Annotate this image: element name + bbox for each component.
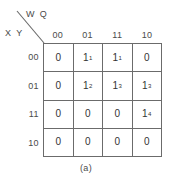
kmap-cell-r3c3: 0 (133, 129, 163, 157)
kmap-cell-group-index: 1 (89, 55, 92, 61)
kmap-cell-r3c2: 0 (103, 129, 133, 157)
kmap-cell-r2c2: 0 (103, 101, 133, 129)
kmap-cell-value: 0 (85, 137, 91, 147)
kmap-cell-value: 1 (113, 81, 119, 91)
kmap-cell-r0c1: 11 (74, 44, 104, 72)
kmap-cell-group-index: 1 (119, 55, 122, 61)
figure-caption: (a) (0, 163, 172, 173)
kmap-cell-group-index: 3 (119, 83, 122, 89)
kmap-cell-value: 1 (113, 53, 119, 63)
kmap-cell-r1c3: 13 (133, 72, 163, 100)
kmap-cell-r2c1: 0 (74, 101, 104, 129)
kmap-cell-r3c1: 0 (74, 129, 104, 157)
row-header-2: 11 (14, 100, 39, 129)
kmap-cell-value: 0 (55, 53, 61, 63)
kmap-cell-group-index: 4 (148, 111, 151, 117)
row-header-1: 01 (14, 72, 39, 101)
row-header-column: 00 01 11 10 (14, 43, 39, 157)
row-variables-label: X Y (5, 28, 24, 38)
kmap-cell-value: 1 (142, 109, 148, 119)
kmap-cell-value: 0 (55, 109, 61, 119)
kmap-cell-r3c0: 0 (44, 129, 74, 157)
kmap-cell-value: 0 (144, 137, 150, 147)
column-header-row: 00 01 11 10 (43, 28, 162, 42)
kmap-cell-value: 0 (55, 137, 61, 147)
kmap-cell-value: 0 (114, 109, 120, 119)
kmap-cell-group-index: 2 (89, 83, 92, 89)
kmap-cell-value: 1 (83, 81, 89, 91)
kmap-cell-r0c2: 11 (103, 44, 133, 72)
kmap-cell-r2c0: 0 (44, 101, 74, 129)
kmap-cell-value: 1 (83, 53, 89, 63)
kmap-cell-value: 0 (144, 53, 150, 63)
column-header-0: 00 (43, 28, 73, 42)
kmap-cell-value: 0 (114, 137, 120, 147)
karnaugh-map-figure: W Q X Y 00 01 11 10 00 01 11 10 01111001… (0, 0, 172, 183)
kmap-cell-value: 0 (55, 81, 61, 91)
kmap-cell-r0c3: 0 (133, 44, 163, 72)
kmap-cell-group-index: 3 (148, 83, 151, 89)
row-header-0: 00 (14, 43, 39, 72)
kmap-cell-r0c0: 0 (44, 44, 74, 72)
column-header-2: 11 (103, 28, 133, 42)
column-variables-label: W Q (26, 9, 48, 19)
kmap-cell-r1c1: 12 (74, 72, 104, 100)
row-header-3: 10 (14, 129, 39, 158)
kmap-cell-r1c2: 13 (103, 72, 133, 100)
kmap-cell-value: 1 (142, 81, 148, 91)
column-header-3: 10 (132, 28, 162, 42)
kmap-cell-value: 0 (85, 109, 91, 119)
kmap-cell-r2c3: 14 (133, 101, 163, 129)
column-header-1: 01 (73, 28, 103, 42)
kmap-grid: 0111100121313000140000 (43, 43, 162, 157)
kmap-cell-r1c0: 0 (44, 72, 74, 100)
